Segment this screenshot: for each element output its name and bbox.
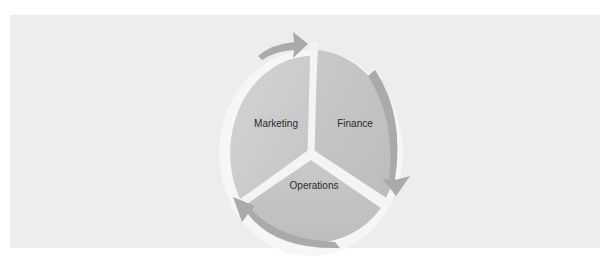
- label-marketing: Marketing: [254, 118, 298, 129]
- label-operations: Operations: [290, 180, 339, 191]
- separator: [311, 42, 314, 153]
- cycle-diagram: [0, 0, 611, 260]
- label-finance: Finance: [337, 118, 373, 129]
